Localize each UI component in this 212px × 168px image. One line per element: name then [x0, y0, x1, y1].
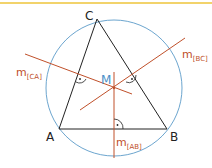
vertex-label-c: C	[85, 9, 93, 23]
right-angle-mark-ca	[76, 78, 86, 83]
bisector-label-ab-base: m	[116, 136, 127, 149]
bisector-label-ab-sub: [AB]	[127, 143, 142, 151]
bisector-label-ab: m[AB]	[116, 136, 142, 151]
bisector-bc	[80, 38, 185, 110]
bisector-label-ca: m[CA]	[16, 66, 42, 81]
vertex-label-b: B	[170, 130, 178, 144]
bisector-label-bc-base: m	[182, 48, 193, 61]
bisector-label-bc: m[BC]	[182, 48, 208, 63]
bisector-label-ca-sub: [CA]	[27, 73, 42, 81]
bisector-label-bc-sub: [BC]	[193, 55, 208, 63]
circumcenter-label: M	[101, 73, 111, 87]
bisector-label-ca-base: m	[16, 66, 27, 79]
circumcenter-point	[113, 87, 115, 89]
circumcircle-diagram: C A B M m[CA] m[BC] m[AB]	[0, 0, 212, 168]
triangle-abc	[59, 19, 167, 129]
vertex-label-a: A	[46, 130, 55, 144]
right-angle-mark-ab	[114, 119, 123, 129]
